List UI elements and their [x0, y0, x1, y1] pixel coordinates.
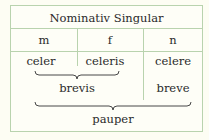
group-brevis: brevis [41, 81, 113, 95]
declension-table: Nominativ Singular m f n celer celeris c… [10, 5, 203, 132]
bracket-brevis [35, 71, 119, 79]
group-breve: breve [143, 81, 203, 95]
bracket-pauper [35, 102, 191, 110]
group-pauper: pauper [77, 112, 149, 126]
